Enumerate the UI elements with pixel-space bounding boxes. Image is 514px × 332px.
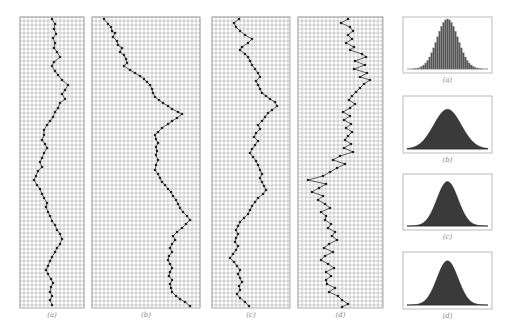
caption-walk-a: (a) — [32, 311, 72, 319]
distribution-panel-c — [403, 174, 492, 230]
grid — [92, 17, 200, 308]
walk-path — [104, 19, 190, 306]
caption-distribution-b: (b) — [428, 156, 468, 164]
walk-points — [307, 18, 372, 309]
walk-path — [230, 19, 277, 306]
walk-panel-d — [298, 17, 383, 308]
figure-canvas — [0, 0, 514, 332]
grid — [20, 17, 84, 308]
walk-panel-a — [20, 17, 84, 308]
walk-path — [308, 19, 370, 307]
distribution-panel-a — [403, 17, 492, 73]
caption-distribution-a: (a) — [428, 76, 468, 84]
caption-walk-d: (d) — [321, 311, 361, 319]
distribution-panel-d — [403, 252, 492, 309]
caption-distribution-d: (d) — [428, 312, 468, 320]
walk-panel-b — [92, 17, 200, 308]
walk-panel-c — [212, 17, 290, 308]
distribution-panel-b — [403, 96, 492, 153]
caption-distribution-c: (c) — [428, 233, 468, 241]
caption-walk-b: (b) — [126, 311, 166, 319]
caption-walk-c: (c) — [231, 311, 271, 319]
